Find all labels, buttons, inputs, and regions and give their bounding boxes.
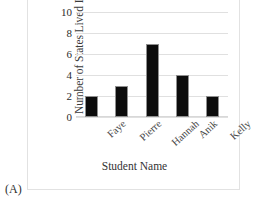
bar (206, 96, 219, 117)
y-tick-label: 8 (67, 27, 73, 39)
bar-slot (76, 12, 106, 117)
y-tick-label: 4 (67, 69, 73, 81)
bar-slot (167, 12, 197, 117)
bar-slot (198, 12, 228, 117)
x-tick-label: Pierre (137, 118, 163, 143)
y-tick-label: 10 (61, 6, 72, 18)
x-tick-label: Faye (105, 118, 128, 140)
bar (85, 96, 98, 117)
y-tick-label: 2 (67, 90, 73, 102)
x-axis-title: Student Name (28, 160, 241, 172)
y-tick-label: 6 (67, 48, 73, 60)
y-tick-label: 0 (67, 111, 73, 123)
x-tick-label: Kelly (228, 118, 253, 142)
bar (146, 44, 159, 118)
chart-panel: Number of States Lived In 0246810 FayePi… (27, 0, 240, 190)
x-tick-label: Anik (197, 118, 220, 140)
bar (115, 86, 128, 118)
bar (176, 75, 189, 117)
x-axis-tick-labels: FayePierreHannahAnikKelly (76, 118, 228, 154)
bar-slot (137, 12, 167, 117)
bar-slot (106, 12, 136, 117)
figure-root: Number of States Lived In 0246810 FayePi… (0, 0, 254, 213)
bar-series (76, 12, 228, 117)
panel-tag: (A) (5, 182, 22, 197)
plot-area: 0246810 (76, 12, 228, 117)
